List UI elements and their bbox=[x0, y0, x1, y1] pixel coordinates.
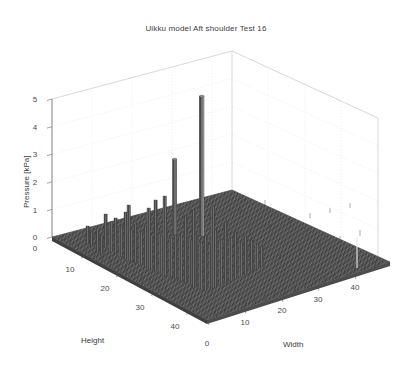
z-origin-tick: 0 bbox=[30, 244, 40, 253]
height-axis-label: Height bbox=[81, 336, 104, 345]
height-tick-20: 20 bbox=[98, 284, 112, 293]
width-tick-40: 40 bbox=[348, 283, 362, 292]
origin-tick: 0 bbox=[201, 339, 213, 348]
spike-secondary bbox=[173, 158, 177, 235]
plot-area bbox=[0, 0, 412, 373]
width-axis-label: Width bbox=[283, 340, 303, 349]
z-tick-4: 4 bbox=[30, 123, 40, 132]
height-tick-30: 30 bbox=[133, 303, 147, 312]
spike-max bbox=[199, 95, 204, 236]
z-axis-label: Pressure [kPa] bbox=[22, 156, 31, 208]
width-tick-10: 10 bbox=[238, 318, 252, 327]
z-tick-0: 0 bbox=[30, 233, 40, 242]
width-tick-20: 20 bbox=[275, 306, 289, 315]
z-axis-ticks bbox=[47, 99, 52, 239]
z-tick-5: 5 bbox=[30, 95, 40, 104]
z-tick-3: 3 bbox=[30, 150, 40, 159]
z-tick-1: 1 bbox=[30, 206, 40, 215]
figure-canvas: Uikku model Aft shoulder Test 16 bbox=[0, 0, 412, 373]
z-tick-2: 2 bbox=[30, 178, 40, 187]
height-tick-10: 10 bbox=[63, 265, 77, 274]
height-tick-40: 40 bbox=[168, 322, 182, 331]
width-tick-30: 30 bbox=[311, 295, 325, 304]
